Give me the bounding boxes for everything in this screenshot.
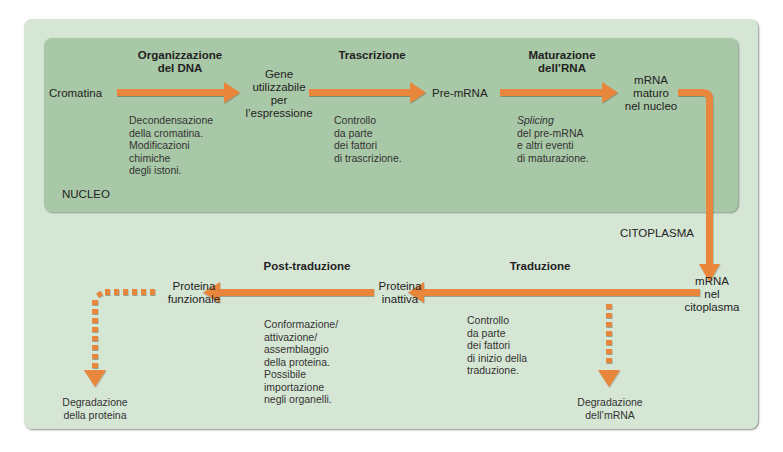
step-desc-dna-organization: Decondensazione della cromatina. Modific…: [129, 114, 213, 177]
node-cromatina: Cromatina: [49, 87, 102, 100]
step-desc-post-translation: Conformazione/ attivazione/ assemblaggio…: [264, 318, 338, 406]
step-title-dna-organization: Organizzazione del DNA: [130, 49, 230, 75]
node-mrna-cytoplasm: mRNA nel citoplasma: [676, 275, 748, 314]
nucleus-label: NUCLEO: [62, 188, 110, 201]
node-mrna-degradation: Degradazione dell’mRNA: [565, 396, 655, 421]
dotted-arrow-down-icon: [598, 304, 620, 387]
step-desc-rna-maturation: Splicing del pre-mRNA e altri eventi di …: [517, 114, 589, 164]
step-desc-transcription: Controllo da parte dei fattori di trascr…: [334, 114, 402, 164]
arrows-layer: [0, 0, 783, 452]
step-desc-translation: Controllo da parte dei fattori di inizio…: [467, 314, 527, 377]
node-protein-degradation: Degradazione della proteina: [50, 396, 140, 421]
arrow-left-icon: [408, 282, 700, 303]
node-mrna-nucleus: mRNA maturo nel nucleo: [620, 74, 682, 113]
node-functional-protein: Proteina funzionale: [162, 280, 226, 306]
node-inactive-protein: Proteina inattiva: [372, 280, 428, 306]
arrow-elbow-down-icon: [678, 89, 720, 282]
node-pre-mrna: Pre-mRNA: [432, 87, 488, 100]
cytoplasm-label: CITOPLASMA: [620, 227, 694, 240]
step-title-post-translation: Post-traduzione: [252, 260, 362, 273]
arrow-left-icon: [203, 282, 374, 303]
arrow-right-icon: [117, 82, 240, 103]
step-title-rna-maturation: Maturazione dell’RNA: [512, 49, 612, 75]
step-title-translation: Traduzione: [490, 260, 590, 273]
dotted-arrow-elbow-down-icon: [84, 289, 155, 387]
arrow-right-icon: [500, 82, 618, 103]
arrow-right-icon: [309, 82, 426, 103]
step-title-transcription: Trascrizione: [322, 49, 422, 62]
node-gene: Gene utilizzabile per l’espressione: [238, 68, 320, 120]
